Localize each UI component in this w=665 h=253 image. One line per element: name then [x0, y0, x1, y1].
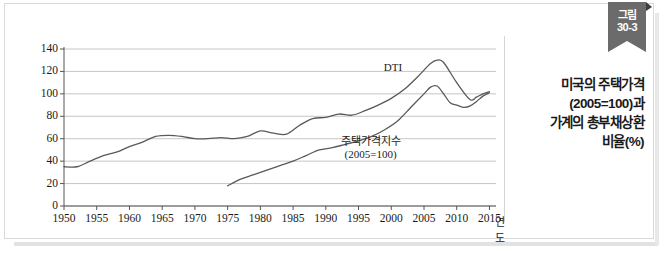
x-tick-label: 1995 [342, 212, 376, 224]
x-tick-label: 1975 [211, 212, 245, 224]
ribbon-label-line1: 그림 [608, 9, 646, 21]
x-tick-label: 1990 [309, 212, 343, 224]
y-tick-label: 80 [24, 109, 58, 121]
series-label-line: (2005=100) [341, 148, 401, 161]
x-tick-label: 1955 [80, 212, 114, 224]
x-tick-label: 1965 [145, 212, 179, 224]
x-tick-label: 2000 [374, 212, 408, 224]
series-label-dti: DTI [384, 61, 402, 74]
line-chart: 0204060801001201401950195519601965197019… [18, 34, 498, 226]
caption-line-4: 비율(%) [512, 132, 644, 151]
x-tick-label: 2005 [407, 212, 441, 224]
caption-line-1: 미국의 주택가격 [512, 75, 644, 94]
series-label-housing-price-index: 주택가격지수(2005=100) [341, 135, 401, 161]
caption-line-3: 가계의 총부채상환 [512, 113, 644, 132]
figure-caption: 미국의 주택가격 (2005=100)과 가계의 총부채상환 비율(%) [512, 75, 644, 151]
ribbon-label-line2: 30-3 [608, 21, 646, 33]
x-tick-label: 2010 [440, 212, 474, 224]
x-tick-label: 1980 [243, 212, 277, 224]
x-tick-label: 1950 [47, 212, 81, 224]
figure-shadow-right [655, 13, 659, 245]
vertical-divider [504, 36, 505, 222]
chart-plot-svg [18, 34, 498, 226]
y-tick-label: 140 [24, 42, 58, 54]
y-tick-label: 0 [24, 199, 58, 211]
figure-container: 그림 30-3 미국의 주택가격 (2005=100)과 가계의 총부채상환 비… [0, 0, 665, 253]
y-tick-label: 100 [24, 87, 58, 99]
y-tick-label: 60 [24, 132, 58, 144]
x-tick-label: 1970 [178, 212, 212, 224]
x-axis-title: 연도 [495, 213, 505, 245]
x-tick-label: 1985 [276, 212, 310, 224]
y-tick-label: 40 [24, 154, 58, 166]
series-label-line: 주택가격지수 [341, 135, 401, 148]
y-tick-label: 120 [24, 64, 58, 76]
caption-line-2: (2005=100)과 [512, 94, 644, 113]
y-tick-label: 20 [24, 177, 58, 189]
figure-shadow-bottom [14, 242, 658, 246]
x-tick-label: 1960 [112, 212, 146, 224]
